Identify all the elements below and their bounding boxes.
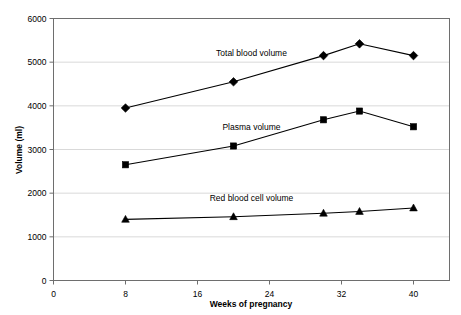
data-point-marker — [122, 162, 128, 168]
series-line-2 — [126, 208, 414, 219]
volume-vs-weeks-line-chart: 0100020003000400050006000 0816243240 Tot… — [0, 0, 461, 315]
y-tick-label-1000: 1000 — [28, 232, 47, 242]
series-label-0: Total blood volume — [216, 48, 287, 58]
y-tick-label-0: 0 — [42, 276, 47, 286]
data-point-marker — [409, 51, 418, 60]
x-tick-label-24: 24 — [265, 289, 275, 299]
data-point-marker — [230, 143, 236, 149]
data-point-marker — [229, 78, 238, 87]
x-tick-label-0: 0 — [51, 289, 56, 299]
x-tick-label-40: 40 — [409, 289, 419, 299]
y-tick-label-4000: 4000 — [28, 101, 47, 111]
x-tick-label-8: 8 — [123, 289, 128, 299]
data-point-marker — [410, 204, 418, 211]
series-annotations-group: Total blood volumePlasma volumeRed blood… — [210, 48, 294, 203]
y-tick-label-6000: 6000 — [28, 14, 47, 24]
x-tick-label-16: 16 — [193, 289, 203, 299]
y-tick-label-5000: 5000 — [28, 57, 47, 67]
y-tick-label-2000: 2000 — [28, 188, 47, 198]
series-line-1 — [126, 111, 414, 165]
x-axis-ticks-group: 0816243240 — [51, 281, 418, 299]
data-point-marker — [356, 108, 362, 114]
data-point-marker — [410, 124, 416, 130]
x-axis-title: Weeks of pregnancy — [210, 299, 293, 309]
data-point-marker — [319, 51, 328, 60]
chart-container: 0100020003000400050006000 0816243240 Tot… — [0, 0, 461, 315]
series-label-1: Plasma volume — [222, 122, 280, 132]
x-tick-label-32: 32 — [337, 289, 347, 299]
y-tick-label-3000: 3000 — [28, 145, 47, 155]
data-point-marker — [355, 40, 364, 49]
y-axis-title: Volume (ml) — [14, 126, 24, 174]
data-point-marker — [121, 104, 130, 113]
y-axis-ticks-group: 0100020003000400050006000 — [28, 14, 54, 286]
data-point-marker — [320, 117, 326, 123]
series-label-2: Red blood cell volume — [210, 193, 294, 203]
